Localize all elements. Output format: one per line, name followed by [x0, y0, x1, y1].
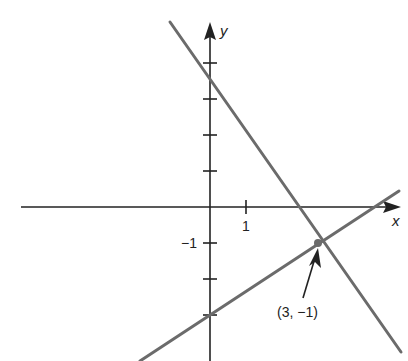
x-tick-label-1: 1: [242, 218, 250, 234]
line-1: [170, 22, 401, 352]
coordinate-plane: x y 1 −1 (3, −1): [0, 0, 408, 361]
annotation-arrowhead-icon: [309, 248, 321, 268]
y-tick-label-neg1: −1: [181, 235, 197, 251]
intersection-label: (3, −1): [277, 304, 318, 320]
annotation-arrow: [303, 248, 321, 298]
line-2: [140, 191, 399, 361]
x-axis-label: x: [391, 212, 400, 229]
x-axis: x: [21, 201, 401, 229]
y-axis-label: y: [219, 22, 229, 39]
intersection-point: [314, 239, 322, 247]
